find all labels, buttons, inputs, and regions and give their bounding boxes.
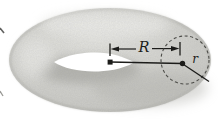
torus-center-point — [108, 60, 113, 65]
torus-figure-svg: R r — [0, 0, 218, 120]
major-radius-label: R — [138, 39, 150, 55]
torus-diagram: R r — [0, 0, 218, 120]
